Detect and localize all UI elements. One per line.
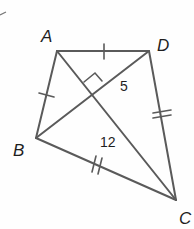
diagonal-ac	[57, 51, 176, 200]
diagram-svg: A D B C 5 12	[0, 0, 194, 229]
corner-mark	[0, 12, 6, 15]
vertex-label-b: B	[13, 141, 24, 160]
tick-dc-1	[153, 110, 171, 113]
vertex-label-d: D	[157, 36, 169, 55]
vertex-label-c: C	[179, 209, 192, 228]
vertex-label-a: A	[40, 27, 52, 46]
kite-diagram: A D B C 5 12	[0, 0, 194, 229]
side-dc	[149, 51, 176, 200]
segment-label-12: 12	[100, 134, 116, 150]
segment-label-5: 5	[120, 78, 128, 94]
right-angle-mark	[84, 73, 102, 82]
